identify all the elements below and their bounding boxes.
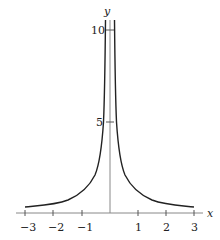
x-axis-label: x [207, 207, 214, 220]
x-tick-label: −3 [20, 221, 36, 234]
y-tick-label: 10 [91, 24, 105, 37]
y-tick-label: 5 [96, 116, 103, 129]
x-tick-label: −2 [48, 221, 64, 234]
curve-right [115, 20, 195, 207]
x-tick-label: 3 [191, 221, 198, 234]
y-axis [106, 20, 114, 213]
chart-plot: −3 −2 −1 1 2 3 5 10 y x [0, 0, 220, 240]
x-tick-label: 1 [135, 221, 142, 234]
x-tick-label: −1 [77, 221, 93, 234]
x-tick-label: 2 [163, 221, 170, 234]
curve-left [25, 20, 106, 207]
y-axis-label: y [103, 5, 111, 18]
